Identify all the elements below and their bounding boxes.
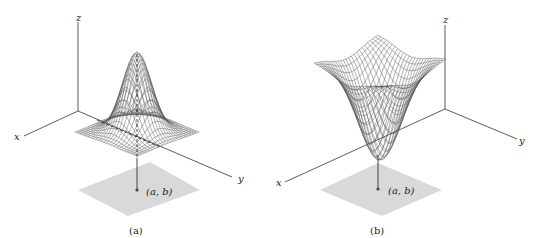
figure-b: z x y (a, b) (b) bbox=[276, 14, 525, 236]
y-label-a: y bbox=[237, 173, 244, 184]
caption-b: (b) bbox=[370, 225, 384, 236]
y-label-b: y bbox=[518, 135, 525, 146]
caption-a: (a) bbox=[129, 225, 143, 236]
figure-canvas: z x y (a, b) (a) z x y (a, b) (b) bbox=[0, 0, 542, 238]
point-label-b: (a, b) bbox=[388, 185, 415, 196]
surface-well-mesh bbox=[314, 35, 446, 160]
x-axis-a bbox=[24, 111, 78, 136]
domain-plane-a bbox=[78, 162, 200, 216]
point-ab-b bbox=[376, 187, 379, 190]
domain-plane-b bbox=[320, 163, 442, 216]
x-label-a: x bbox=[14, 131, 20, 142]
figure-a: z x y (a, b) (a) bbox=[14, 12, 244, 236]
point-label-a: (a, b) bbox=[146, 186, 173, 197]
z-label-a: z bbox=[75, 12, 82, 23]
point-ab-a bbox=[135, 188, 138, 191]
z-label-b: z bbox=[442, 14, 449, 25]
y-axis-b bbox=[445, 109, 517, 139]
x-label-b: x bbox=[276, 177, 282, 188]
